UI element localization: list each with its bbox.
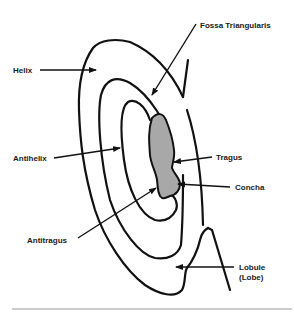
label-antitragus: Antitragus <box>27 236 68 245</box>
fossa-arrow <box>152 24 196 95</box>
label-fossa-triangularis: Fossa Triangularis <box>200 21 271 30</box>
helix-crus <box>183 60 188 97</box>
label-lobe: (Lobe) <box>239 273 264 282</box>
lobule-line <box>208 228 230 290</box>
helix-outline <box>79 40 208 295</box>
tragus-arrow <box>174 157 212 162</box>
concha-arrow <box>178 184 230 187</box>
label-tragus: Tragus <box>216 153 243 162</box>
antihelix-right <box>187 110 203 225</box>
concha-fill <box>149 114 180 198</box>
label-helix: Helix <box>13 66 33 75</box>
antihelix-arrow <box>54 148 120 158</box>
label-concha: Concha <box>235 183 265 192</box>
ear-diagram: Fossa Triangularis Helix Antihelix Tragu… <box>0 0 294 315</box>
label-lobule: Lobule <box>239 263 266 272</box>
label-antihelix: Antihelix <box>13 154 47 163</box>
